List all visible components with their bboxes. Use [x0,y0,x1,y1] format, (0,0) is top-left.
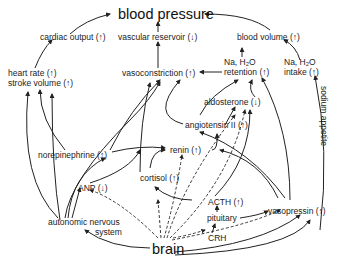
angiotensin-label: angiotensin II (↑) [185,120,248,130]
blood-pressure-label: blood pressure [118,6,214,22]
renin-label: renin (↑) [170,145,201,155]
acth-label: ACTH (↑) [208,197,243,207]
pituitary-label: pituitary [207,213,237,223]
stroke-volume-label: stroke volume (↑) [8,78,73,88]
autonomic-nervous-system-label-2: system [95,227,122,237]
blood-volume-label: blood volume (↑) [237,32,300,42]
brain-label: brain [152,241,184,257]
na-h2o-retention-label-2: retention (↑) [224,67,269,77]
vasoconstriction-label: vasoconstriction (↑) [122,68,195,78]
na-h2o-intake-label-2: intake (↑) [284,67,319,77]
autonomic-nervous-system-label-1: autonomic nervous [48,217,120,227]
aldosterone-label: aldosterone (↓) [204,97,261,107]
na-h2o-intake-label-1: Na, H₂O [284,57,316,67]
crh-label: CRH [208,233,226,243]
na-h2o-retention-label-1: Na, H₂O [224,57,256,67]
vasopressin-label: vasopressin (↑) [268,206,326,216]
physiology-diagram: blood pressure cardiac output (↑) vascul… [0,0,339,262]
anp-label: ANP (↓) [78,183,108,193]
vascular-reservoir-label: vascular reservoir (↓) [118,32,197,42]
cardiac-output-label: cardiac output (↑) [40,32,106,42]
norepinephrine-label: norepinephrine (↑) [38,150,107,160]
heart-rate-label: heart rate (↑) [8,68,57,78]
cortisol-label: cortisol (↑) [140,173,179,183]
sodium-appetite-label: sodium appetite [319,86,329,146]
